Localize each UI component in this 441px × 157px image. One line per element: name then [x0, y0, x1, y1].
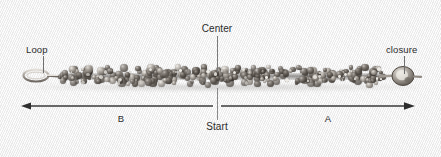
bead-highlight	[300, 73, 302, 75]
bead	[235, 65, 241, 71]
bead-highlight	[245, 81, 249, 85]
bead	[76, 72, 82, 78]
bead	[349, 65, 354, 70]
bead	[135, 66, 140, 71]
bead	[85, 65, 93, 73]
bead-highlight	[221, 70, 223, 72]
label-closure: closure	[386, 44, 417, 55]
bead-highlight	[179, 69, 182, 72]
bead-highlight	[234, 80, 236, 82]
bead	[110, 69, 114, 73]
bead-highlight	[86, 73, 90, 77]
bead	[201, 73, 206, 78]
label-segment-a: A	[325, 113, 331, 124]
label-start: Start	[206, 121, 228, 132]
bead	[96, 79, 101, 84]
loop-leader-line	[43, 56, 44, 73]
bead	[289, 69, 293, 73]
bead-highlight	[344, 73, 347, 76]
closure-clasp-icon	[379, 64, 422, 88]
bead	[322, 78, 327, 83]
bead-highlight	[307, 80, 309, 82]
measurement-arrow	[0, 96, 441, 118]
bead	[75, 80, 79, 84]
bead-highlight	[354, 78, 356, 80]
center-leader-line	[217, 36, 218, 72]
bead-highlight	[81, 81, 85, 85]
bead-highlight	[149, 68, 152, 71]
figure-canvas: Center Loop closure Start B A	[0, 0, 441, 157]
bead-highlight	[142, 76, 144, 78]
bead-highlight	[338, 75, 340, 77]
bead	[361, 64, 369, 72]
bead	[331, 76, 336, 81]
bead-highlight	[119, 78, 122, 81]
bead	[145, 78, 153, 86]
bead	[60, 78, 66, 84]
bead-strand	[58, 62, 386, 90]
bead	[248, 71, 252, 75]
closure-leader-line	[404, 56, 405, 74]
bead-highlight	[285, 78, 289, 82]
bead-highlight	[195, 79, 197, 81]
label-segment-b: B	[118, 113, 124, 124]
label-loop: Loop	[26, 44, 48, 55]
bead	[172, 81, 176, 85]
label-center: Center	[202, 23, 233, 34]
bead	[273, 76, 278, 81]
bead	[194, 70, 199, 75]
bead	[254, 68, 261, 75]
bead-highlight	[175, 71, 177, 73]
bead	[229, 76, 232, 79]
bead-highlight	[206, 70, 210, 74]
loop-clasp-icon	[22, 67, 62, 84]
bead-highlight	[214, 72, 218, 76]
bead-highlight	[244, 76, 247, 79]
bead	[261, 70, 265, 74]
beaded-bracelet	[22, 58, 422, 94]
bead	[299, 66, 303, 70]
bead	[138, 80, 145, 87]
bead-highlight	[313, 75, 317, 79]
bead	[187, 81, 193, 87]
bead	[184, 69, 191, 76]
bead	[283, 70, 290, 77]
bead	[162, 70, 170, 78]
bead	[120, 64, 128, 72]
bead	[254, 81, 261, 88]
bead-highlight	[265, 76, 268, 79]
